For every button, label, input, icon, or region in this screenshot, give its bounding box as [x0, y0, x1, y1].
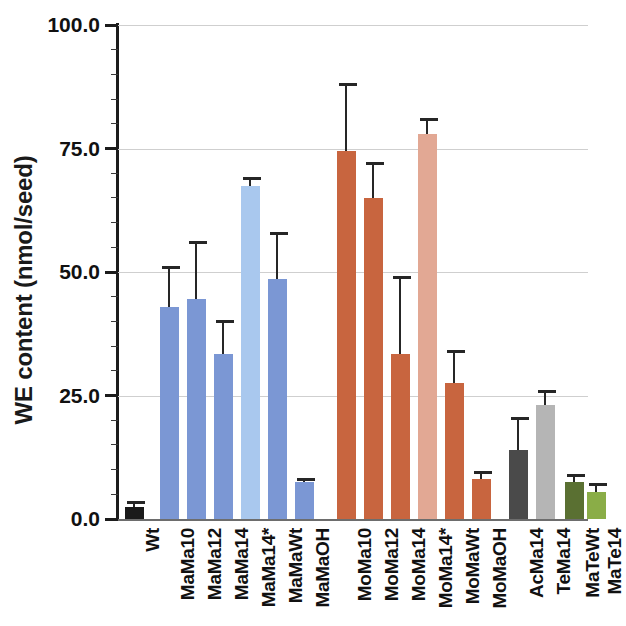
error-bar-cap [127, 501, 145, 504]
y-tick-label: 75.0 [59, 137, 100, 161]
error-bar [399, 277, 401, 354]
y-tick-minor [111, 173, 118, 174]
bar-moma14 [391, 354, 410, 519]
x-tick-label: MaMa14 [231, 528, 253, 600]
error-bar-cap [162, 266, 180, 269]
x-tick-label: MoMa12 [381, 528, 403, 601]
error-bar [372, 163, 374, 198]
x-tick-label: MoMa10 [354, 528, 376, 601]
error-bar [595, 484, 597, 491]
error-bar [517, 418, 519, 450]
x-tick-label: MaMa12 [204, 528, 226, 600]
error-bar [222, 321, 224, 353]
x-tick-label: MaMaOH [312, 528, 334, 608]
y-tick-minor [111, 346, 118, 347]
x-tick-label: MoMaOH [489, 528, 511, 609]
error-bar [249, 178, 251, 185]
y-tick-mark [105, 147, 118, 150]
x-tick-label: MaMa14* [258, 528, 280, 607]
error-bar-cap [393, 276, 411, 279]
gridline [118, 25, 588, 26]
error-bar [133, 502, 135, 507]
x-tick-label: MoMa14* [435, 528, 457, 608]
y-tick-minor [111, 222, 118, 223]
bar-mamaoh [295, 482, 314, 519]
error-bar-cap [366, 162, 384, 165]
y-tick-label: 0.0 [71, 507, 100, 531]
error-bar-cap [567, 474, 585, 477]
bar-mama14-star [241, 186, 260, 519]
y-tick-minor [111, 444, 118, 445]
gridline [118, 149, 588, 150]
bar-mate14 [587, 492, 606, 519]
error-bar-cap [447, 350, 465, 353]
bar-moma10 [337, 151, 356, 519]
error-bar [276, 233, 278, 280]
y-tick-mark [105, 24, 118, 27]
plot-area: 0.025.050.075.0100.0 [118, 25, 588, 519]
y-tick-minor [111, 247, 118, 248]
error-bar [426, 119, 428, 134]
y-tick-minor [111, 494, 118, 495]
y-tick-minor [111, 420, 118, 421]
x-tick-label: MaMa10 [177, 528, 199, 600]
y-tick-mark [105, 394, 118, 397]
y-tick-minor [111, 49, 118, 50]
bar-mamawt [268, 279, 287, 519]
y-tick-mark [105, 271, 118, 274]
error-bar [480, 472, 482, 479]
x-tick-label: Wt [142, 528, 164, 552]
bar-matewt [565, 482, 584, 519]
y-tick-minor [111, 296, 118, 297]
error-bar [544, 391, 546, 406]
y-tick-minor [111, 123, 118, 124]
x-tick-label: AcMa14 [526, 528, 548, 598]
error-bar-cap [270, 232, 288, 235]
y-tick-minor [111, 370, 118, 371]
error-bar-cap [511, 417, 529, 420]
error-bar-cap [243, 177, 261, 180]
bar-mama14 [214, 354, 233, 519]
error-bar-cap [474, 471, 492, 474]
error-bar-cap [538, 390, 556, 393]
error-bar [303, 479, 305, 481]
x-axis-line [116, 519, 588, 521]
bar-momawt [445, 383, 464, 519]
y-tick-minor [111, 99, 118, 100]
y-tick-minor [111, 469, 118, 470]
y-tick-label: 50.0 [59, 260, 100, 284]
error-bar-cap [420, 118, 438, 121]
error-bar [195, 242, 197, 299]
error-bar-cap [339, 83, 357, 86]
x-tick-label: MoMaWt [462, 528, 484, 604]
y-tick-label: 100.0 [47, 13, 100, 37]
bar-momaoh [472, 479, 491, 519]
y-axis-title: WE content (nmol/seed) [10, 70, 38, 510]
error-bar-cap [589, 483, 607, 486]
bar-wt [125, 507, 144, 519]
bar-moma14-star [418, 134, 437, 519]
x-tick-label: MaTe14 [604, 528, 626, 595]
error-bar [573, 475, 575, 482]
bar-mama12 [187, 299, 206, 519]
x-tick-label: TeMa14 [553, 528, 575, 595]
bar-moma12 [364, 198, 383, 519]
y-tick-minor [111, 321, 118, 322]
y-tick-minor [111, 197, 118, 198]
error-bar-cap [189, 241, 207, 244]
error-bar [345, 84, 347, 151]
error-bar-cap [216, 320, 234, 323]
y-tick-minor [111, 74, 118, 75]
bar-acma14 [509, 450, 528, 519]
error-bar [453, 351, 455, 383]
bar-tema14 [536, 405, 555, 519]
error-bar [168, 267, 170, 307]
x-tick-label: MaMaWt [285, 528, 307, 603]
y-tick-label: 25.0 [59, 384, 100, 408]
x-tick-label: MaTeWt [582, 528, 604, 598]
y-tick-mark [105, 518, 118, 521]
bar-mama10 [160, 307, 179, 519]
error-bar-cap [297, 478, 315, 481]
x-tick-label: MoMa14 [408, 528, 430, 601]
